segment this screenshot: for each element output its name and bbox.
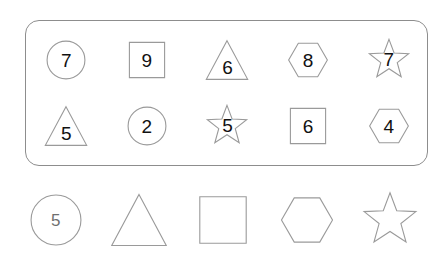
shape-cell-hexagon[interactable]: 4	[358, 96, 420, 156]
shape-cell-star[interactable]: 5	[196, 96, 258, 156]
shape-value-label: 8	[303, 51, 314, 70]
shape-cell-triangle[interactable]: 5	[35, 96, 97, 156]
shape-value-label: 4	[383, 117, 394, 136]
shape-cell-circle[interactable]: 7	[35, 30, 97, 90]
shape-legend-row: 5	[14, 182, 432, 258]
shape-cell-square[interactable]: 9	[116, 30, 178, 90]
shape-cell-circle[interactable]: 5	[19, 184, 93, 256]
shape-value-label: 6	[303, 117, 314, 136]
shape-cell-square[interactable]	[186, 184, 260, 256]
shape-cell-triangle[interactable]: 6	[196, 30, 258, 90]
shape-value-label: 6	[222, 58, 233, 77]
shape-cell-triangle[interactable]	[102, 184, 176, 256]
shape-cell-circle[interactable]: 2	[116, 96, 178, 156]
shape-value-label: 7	[383, 50, 394, 69]
shape-cell-hexagon[interactable]: 8	[277, 30, 339, 90]
shape-row-2: 52564	[26, 93, 429, 159]
shape-cell-hexagon[interactable]	[270, 184, 344, 256]
shape-panel: 79687 52564	[25, 20, 428, 166]
shape-value-label: 5	[61, 124, 72, 143]
shape-value-label: 5	[51, 212, 60, 229]
shape-row-1: 79687	[26, 27, 429, 93]
shape-value-label: 9	[142, 51, 153, 70]
shape-cell-star[interactable]: 7	[358, 30, 420, 90]
shape-cell-square[interactable]: 6	[277, 96, 339, 156]
shape-value-label: 2	[142, 117, 153, 136]
shape-value-label: 7	[61, 51, 72, 70]
shape-cell-star[interactable]	[353, 184, 427, 256]
shape-grid-canvas: 79687 52564 5	[0, 0, 446, 260]
shape-value-label: 5	[222, 116, 233, 135]
